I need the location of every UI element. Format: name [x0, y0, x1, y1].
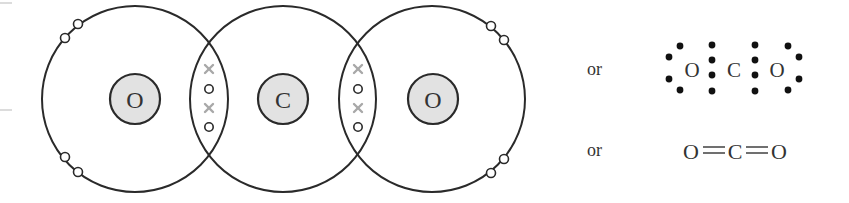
carbon-symbol: C	[275, 87, 291, 113]
oxygen-right-symbol: O	[424, 87, 441, 113]
structural-formula: O C O	[683, 139, 787, 164]
or-label-1: or	[587, 59, 602, 79]
cross-electron	[354, 65, 362, 73]
carbon-nucleus: C	[258, 74, 308, 124]
co2-diagram: O C O	[0, 0, 849, 203]
shared-electrons-right	[354, 65, 362, 131]
lewis-dot-structure: O C O	[666, 42, 803, 95]
struct-oxygen-right: O	[771, 139, 787, 164]
lone-electron	[500, 36, 509, 45]
dot-electron	[205, 85, 213, 93]
struct-oxygen-left: O	[683, 139, 699, 164]
shared-electrons-left	[205, 65, 213, 131]
oxygen-left-nucleus: O	[110, 74, 160, 124]
lewis-carbon: C	[727, 58, 741, 82]
lewis-oxygen-left: O	[684, 58, 699, 82]
lone-pairs-right-oxygen	[487, 22, 509, 178]
cross-electron	[354, 104, 362, 112]
lone-electron	[61, 34, 70, 43]
dot-electron	[354, 123, 362, 131]
lone-electron	[487, 22, 496, 31]
lone-pairs-left-oxygen	[61, 20, 83, 177]
lone-electron	[61, 153, 70, 162]
lone-electron	[74, 20, 83, 29]
struct-carbon: C	[728, 139, 743, 164]
lone-electron	[500, 155, 509, 164]
lewis-oxygen-right: O	[769, 58, 784, 82]
lone-electron	[487, 169, 496, 178]
dot-electron	[354, 85, 362, 93]
cross-electron	[205, 65, 213, 73]
cross-electron	[205, 104, 213, 112]
dot-electron	[205, 123, 213, 131]
oxygen-left-symbol: O	[126, 87, 143, 113]
or-label-2: or	[587, 140, 602, 160]
oxygen-right-nucleus: O	[408, 74, 458, 124]
lone-electron	[74, 168, 83, 177]
